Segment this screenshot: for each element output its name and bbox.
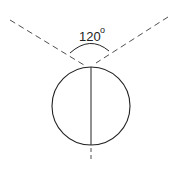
contact-angle-diagram: 120 o [0,0,173,172]
left-tangent-line [10,20,84,65]
diagram-canvas: 120 o [0,0,173,172]
degree-symbol: o [100,25,105,35]
right-tangent-line [96,17,168,63]
right-lobe [91,67,130,145]
angle-arc [70,43,109,53]
angle-label: 120 [79,29,101,44]
left-lobe [52,67,91,145]
